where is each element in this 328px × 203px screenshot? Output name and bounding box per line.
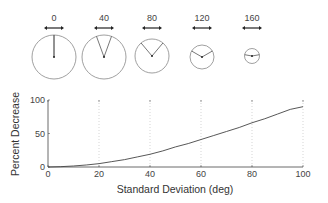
diagram-label: 160: [244, 13, 259, 23]
diagram-label: 40: [99, 13, 109, 23]
x-axis-label: Standard Deviation (deg): [0, 183, 328, 195]
y-tick-label: 0: [40, 162, 45, 172]
y-tick-label: 100: [30, 95, 45, 105]
center-dot: [151, 55, 153, 57]
x-tick-label: 60: [196, 169, 206, 179]
x-tick-label: 20: [94, 169, 104, 179]
center-dot: [201, 56, 203, 58]
x-tick-label: 100: [295, 169, 310, 179]
y-tick-label: 50: [35, 129, 45, 139]
y-axis-label: Percent Decrease: [9, 89, 21, 179]
diagram-label: 120: [194, 13, 209, 23]
sector-lines: [96, 36, 111, 57]
diagram-label: 0: [51, 13, 56, 23]
diagram-label: 80: [147, 13, 157, 23]
center-dot: [251, 55, 253, 57]
x-tick-label: 40: [145, 169, 155, 179]
data-line: [48, 107, 303, 167]
center-dot: [53, 56, 55, 58]
x-tick-label: 0: [45, 169, 50, 179]
sector-lines: [141, 43, 163, 56]
figure: 04080120160020406080100050100: [0, 0, 328, 203]
center-dot: [103, 56, 105, 58]
x-tick-label: 80: [247, 169, 257, 179]
